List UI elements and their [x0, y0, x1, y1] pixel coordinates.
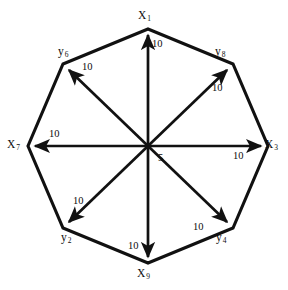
magnitude-label-left: 10: [49, 129, 60, 140]
magnitude-label-bottom: 10: [128, 241, 139, 252]
vertex-label-x1-sub: 1: [147, 14, 152, 23]
center-hub: [145, 143, 151, 149]
vector-arrow-lower-left: [69, 146, 148, 222]
magnitude-label-lower-left: 10: [73, 196, 84, 207]
vertex-label-y4: y4: [216, 232, 227, 244]
vertex-label-x9-sub: 9: [146, 272, 151, 281]
vertex-label-x9: X9: [137, 268, 150, 280]
vertex-label-y6-sub: 6: [64, 50, 69, 59]
vertex-label-x3: X3: [265, 139, 278, 151]
vertex-label-x3-sub: 3: [274, 143, 279, 152]
vector-arrow-upper-left: [69, 70, 148, 146]
vertex-label-y4-sub: 4: [222, 236, 227, 245]
vertex-label-x7-base: X: [7, 138, 16, 150]
vertex-label-y2-sub: 2: [67, 236, 72, 245]
vertex-label-y6: y6: [58, 46, 69, 58]
vertex-label-y8: y8: [215, 46, 226, 58]
vertex-label-x3-base: X: [265, 138, 274, 150]
figure-container: X1 y8 X3 y4 X9 y2 X7 y6 10 10 10 10 10 1…: [0, 0, 288, 290]
octagon-vector-diagram: [0, 0, 288, 290]
magnitude-label-right: 10: [233, 151, 244, 162]
center-value-label: 5: [158, 153, 163, 164]
vertex-label-y2: y2: [61, 232, 72, 244]
vertex-label-y8-sub: 8: [221, 50, 226, 59]
magnitude-label-upper-right: 10: [212, 83, 223, 94]
magnitude-label-upper-left: 10: [82, 62, 93, 73]
vertex-label-x1: X1: [138, 10, 151, 22]
vertex-label-x1-base: X: [138, 9, 147, 21]
magnitude-label-lower-right: 10: [193, 222, 204, 233]
vertex-label-x7: X7: [7, 139, 20, 151]
vertex-label-x7-sub: 7: [16, 143, 21, 152]
vertex-label-x9-base: X: [137, 267, 146, 279]
magnitude-label-top: 10: [152, 39, 163, 50]
